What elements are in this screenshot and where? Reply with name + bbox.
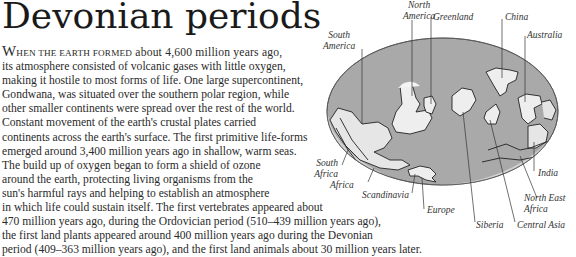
label-africa: Africa <box>330 180 354 191</box>
label-north-east-africa: North EastAfrica <box>524 193 565 214</box>
label-australia: Australia <box>527 30 562 41</box>
label-india: India <box>538 168 558 179</box>
label-greenland: Greenland <box>433 12 473 23</box>
label-scandinavia: Scandinavia <box>362 190 409 201</box>
label-europe: Europe <box>427 205 455 216</box>
label-south-america: SouthAmerica <box>323 30 355 51</box>
label-south-africa: SouthAfrica <box>302 158 338 179</box>
label-china: China <box>505 12 528 23</box>
label-central-asia: Central Asia <box>517 220 565 231</box>
label-siberia: Siberia <box>476 220 503 231</box>
label-north-america: NorthAmerica <box>403 0 435 21</box>
